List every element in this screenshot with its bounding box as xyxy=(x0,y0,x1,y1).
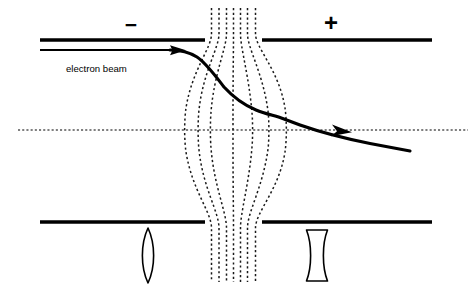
field-line-6 xyxy=(248,8,269,282)
diagram-canvas: − + electron beam xyxy=(0,0,473,288)
field-line-5 xyxy=(241,8,253,282)
converging-lens-symbol xyxy=(142,228,153,283)
field-line-2 xyxy=(198,8,219,282)
diverging-lens-symbol xyxy=(307,230,328,281)
electron-beam-trajectory xyxy=(170,50,410,151)
minus-sign: − xyxy=(125,13,137,36)
field-lines-group xyxy=(185,8,287,282)
field-line-4 xyxy=(233,8,234,282)
field-line-7 xyxy=(256,8,287,282)
plus-sign: + xyxy=(324,9,338,36)
electrostatic-lens-diagram: − + electron beam xyxy=(0,0,473,288)
electron-beam-label: electron beam xyxy=(66,63,127,74)
field-line-3 xyxy=(210,8,226,282)
